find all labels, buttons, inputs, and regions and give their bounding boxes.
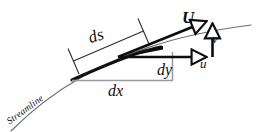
dx-label: dx [108,83,123,99]
u-label: u [200,57,207,70]
dy-label: dy [157,62,172,78]
streamline-diagram: ds dx dy u v U Streamline [0,0,277,132]
velocity-label: U [182,9,194,26]
v-label: v [212,32,218,45]
diagram-canvas [0,0,277,132]
